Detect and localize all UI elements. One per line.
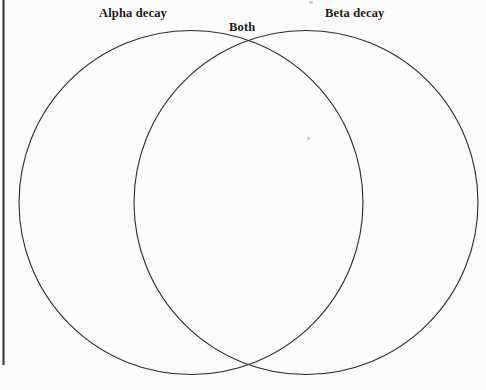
venn-label-intersection: Both: [229, 20, 255, 35]
venn-diagram-canvas: [0, 0, 486, 390]
venn-diagram-page: Alpha decay Both Beta decay: [0, 0, 486, 390]
scan-artifact-speck-top: [309, 1, 313, 4]
venn-label-right-set: Beta decay: [325, 6, 384, 21]
diagram-background: [0, 0, 486, 390]
venn-label-left-set: Alpha decay: [99, 6, 167, 21]
scan-artifact-speck-center: [307, 137, 310, 140]
